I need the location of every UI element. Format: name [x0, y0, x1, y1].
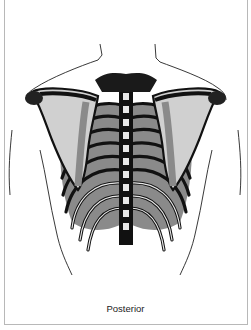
upper-thoracic-vertebrae — [95, 73, 157, 92]
figure-caption: Posterior — [0, 303, 251, 314]
vertebral-column — [119, 75, 133, 245]
posterior-thorax-illustration — [0, 0, 251, 330]
